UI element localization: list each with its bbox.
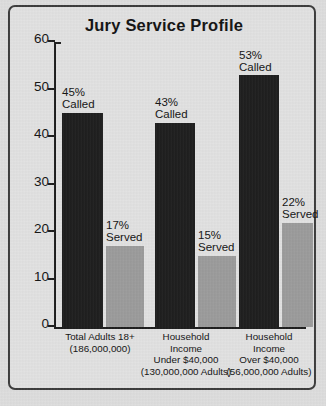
category-line: (56,000,000 Adults): [219, 366, 319, 378]
y-axis-line: [54, 42, 56, 329]
bar-served-total-adults: [106, 246, 144, 327]
category-line: Income: [219, 343, 319, 355]
y-axis-top-cap: [54, 42, 61, 44]
category-line: Household: [219, 331, 319, 343]
y-tick-0: 0: [54, 325, 61, 327]
y-tick-30: 30: [54, 183, 61, 185]
y-tick-label-50: 50: [34, 79, 49, 95]
y-tick-label-60: 60: [34, 31, 49, 47]
chart-title: Jury Service Profile: [10, 16, 318, 35]
bar-label-served-income-under-40k: 15% Served: [198, 229, 234, 254]
bar-label-called-income-over-40k: 53% Called: [239, 49, 272, 74]
plot-area: 0 10 20 30 40 50: [54, 42, 306, 329]
category-label-income-over-40k: Household Income Over $40,000 (56,000,00…: [219, 331, 319, 377]
bar-called-income-under-40k: [155, 123, 195, 327]
scanned-page: Jury Service Profile 0 10 20 30: [0, 0, 326, 406]
y-tick-20: 20: [54, 230, 61, 232]
bar-called-income-over-40k: [239, 75, 279, 327]
bar-served-income-over-40k: [282, 223, 313, 328]
category-line: Over $40,000: [219, 354, 319, 366]
bar-served-income-under-40k: [198, 256, 236, 327]
y-tick-label-20: 20: [34, 221, 49, 237]
category-axis-labels: Total Adults 18+ (186,000,000) Household…: [22, 331, 314, 389]
bar-called-total-adults: [62, 113, 103, 327]
y-tick-label-0: 0: [41, 316, 49, 332]
y-tick-label-40: 40: [34, 126, 49, 142]
bar-label-served-total-adults: 17% Served: [106, 219, 142, 244]
y-tick-10: 10: [54, 278, 61, 280]
bar-label-served-income-over-40k: 22% Served: [282, 196, 318, 221]
y-tick-label-10: 10: [34, 269, 49, 285]
bar-label-called-income-under-40k: 43% Called: [155, 96, 188, 121]
chart-frame: Jury Service Profile 0 10 20 30: [8, 5, 316, 390]
y-tick-40: 40: [54, 135, 61, 137]
x-axis-line: [54, 327, 306, 329]
y-tick-60: 60: [54, 40, 61, 42]
y-tick-label-30: 30: [34, 174, 49, 190]
bar-label-called-total-adults: 45% Called: [62, 86, 95, 111]
y-tick-50: 50: [54, 88, 61, 90]
